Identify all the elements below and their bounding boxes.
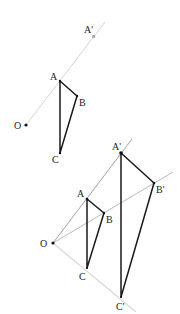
label-c: C: [52, 154, 59, 165]
point-c: [59, 152, 61, 154]
point-a: [86, 198, 89, 201]
triangle-a-prime-b-prime-c-prime: [121, 153, 154, 297]
point-a: [59, 80, 61, 82]
label-a: A: [77, 188, 85, 199]
label-o: O: [40, 238, 47, 249]
label-c: C: [79, 271, 86, 282]
label-a: A: [50, 71, 58, 82]
point-b: [76, 95, 78, 97]
label-b: B: [79, 97, 86, 108]
triangle-abc-small: [87, 199, 104, 268]
label-o: O: [14, 120, 21, 131]
point-o: [24, 123, 27, 126]
point-c: [86, 267, 88, 269]
figure-top: A' o A B C O: [14, 22, 105, 165]
point-c-prime: [120, 296, 122, 298]
label-a-prime-sub: o: [92, 33, 95, 39]
point-o: [51, 241, 54, 244]
figure-bottom: A' B' C' A B C O: [40, 139, 173, 312]
label-b: B: [106, 214, 113, 225]
label-b-prime: B': [156, 184, 165, 195]
ray-o-through-a-a-prime: [53, 139, 132, 243]
point-b: [103, 212, 105, 214]
dilation-diagram: A' o A B C O A' B': [0, 0, 180, 314]
label-c-prime: C': [116, 301, 125, 312]
diagram-svg: A' o A B C O A' B': [0, 0, 180, 314]
point-b-prime: [153, 182, 156, 185]
triangle-abc: [60, 81, 77, 153]
label-a-prime: A': [112, 141, 121, 152]
